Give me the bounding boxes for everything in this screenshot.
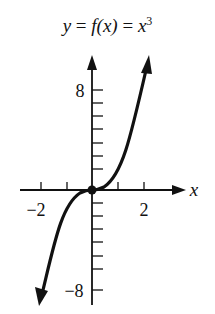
- y-axis-arrow-icon: [87, 55, 97, 70]
- x-axis-label: x: [189, 179, 199, 200]
- curve-arrow-down-icon: [35, 287, 48, 306]
- y-tick-label-8: 8: [76, 81, 85, 101]
- x-tick-label-2: 2: [140, 200, 149, 220]
- curve-arrow-up-icon: [141, 55, 152, 74]
- y-tick-label-neg8: −8: [64, 281, 83, 301]
- origin-point: [88, 186, 97, 195]
- x-axis-arrow-icon: [172, 185, 186, 195]
- x-tick-label-neg2: −2: [26, 200, 45, 220]
- plot-area: 8 −8 −2 2 x: [0, 0, 215, 314]
